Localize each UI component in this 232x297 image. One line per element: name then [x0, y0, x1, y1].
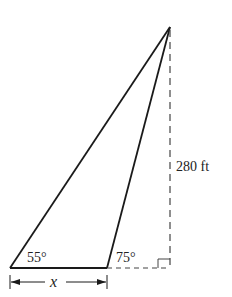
angle-label-left: 55°	[27, 250, 47, 265]
base-label: x	[49, 273, 57, 290]
triangle-diagram: 55° 75° 280 ft x	[0, 0, 232, 297]
hypotenuse-left	[10, 27, 170, 268]
hypotenuse-inner	[107, 27, 170, 268]
arrowhead-left-icon	[11, 279, 20, 285]
height-label: 280 ft	[176, 159, 209, 174]
right-angle-marker	[158, 259, 170, 268]
arrowhead-right-icon	[97, 279, 106, 285]
angle-label-middle: 75°	[116, 250, 136, 265]
